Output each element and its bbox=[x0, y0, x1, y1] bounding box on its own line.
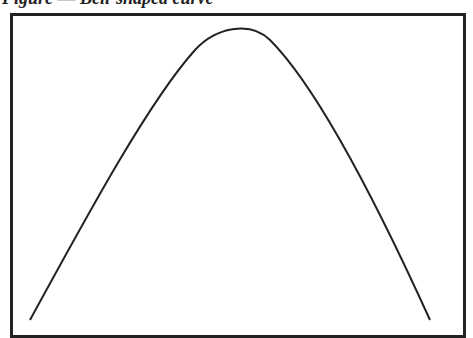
bell-curve bbox=[0, 0, 473, 337]
